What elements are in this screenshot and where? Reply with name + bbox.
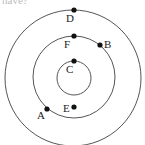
diagram-canvas: DFBCEA [0,0,145,145]
point-label-f: F [64,38,70,50]
point-label-b: B [104,38,111,50]
point-label-a: A [37,109,45,121]
point-label-c: C [66,63,73,75]
point-b [97,42,102,47]
point-a [44,106,49,111]
point-f [71,33,76,38]
point-label-d: D [66,12,74,24]
point-e [71,104,76,109]
point-label-e: E [63,102,70,114]
circle-inner [57,61,91,95]
circle-outer [5,10,141,145]
concentric-circles-diagram: have? DFBCEA [0,0,145,145]
